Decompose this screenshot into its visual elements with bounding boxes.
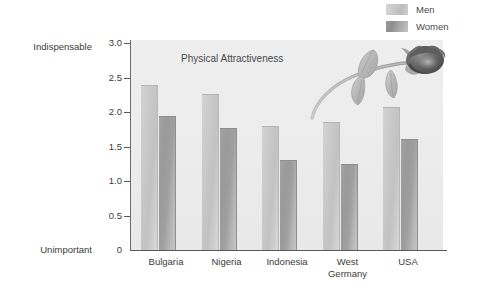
men-swatch-icon — [386, 4, 408, 15]
y-tick-label: 0.5 — [109, 211, 122, 221]
y-tick-label: 3.0 — [109, 38, 122, 48]
y-tick-label: 2.5 — [109, 73, 122, 83]
bar-women-usa — [401, 139, 418, 251]
bar-women-indonesia — [280, 160, 297, 251]
bar-men-usa — [383, 107, 400, 251]
bar-chart: 3.02.52.01.51.00.50 Physical Attractiven… — [96, 40, 451, 255]
x-axis-line — [130, 250, 447, 251]
legend-item-women: Women — [386, 19, 482, 34]
legend-label-women: Women — [416, 21, 449, 32]
bar-men-indonesia — [262, 126, 279, 251]
legend-label-men: Men — [416, 4, 434, 15]
chart-legend: Men Women — [386, 2, 482, 36]
y-tick-label: 2.0 — [109, 107, 122, 117]
y-tick-label: 1.5 — [109, 142, 122, 152]
x-axis-label: USA — [372, 256, 444, 268]
bar-women-west-germany — [341, 164, 358, 251]
y-tick-label: 0 — [117, 245, 122, 255]
y-axis-tick-labels: 3.02.52.01.51.00.50 — [96, 40, 122, 255]
bar-women-bulgaria — [159, 116, 176, 251]
bar-men-west-germany — [323, 122, 340, 251]
plot-area: Physical Attractiveness — [130, 40, 443, 251]
y-axis-max-label: Indispensable — [0, 41, 92, 52]
bar-men-bulgaria — [141, 85, 158, 251]
y-tick-label: 1.0 — [109, 176, 122, 186]
bar-men-nigeria — [202, 94, 219, 251]
bar-women-nigeria — [220, 128, 237, 252]
women-swatch-icon — [386, 21, 408, 32]
y-axis-min-label: Unimportant — [0, 244, 92, 255]
rose-icon — [306, 45, 446, 125]
chart-title: Physical Attractiveness — [181, 53, 283, 64]
x-axis-labels: BulgariaNigeriaIndonesiaWest GermanyUSA — [96, 256, 456, 292]
legend-item-men: Men — [386, 2, 482, 17]
